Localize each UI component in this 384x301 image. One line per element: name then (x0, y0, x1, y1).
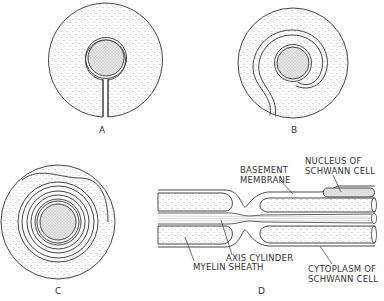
axon-b (277, 47, 309, 79)
panel-label-d: D (258, 286, 265, 296)
panel-label-c: C (55, 286, 61, 296)
panel-d-node-of-ranvier (158, 175, 377, 264)
label-nucleus-of-schwann-cell: NUCLEUS OF SCHWANN CELL (305, 156, 375, 176)
label-cytoplasm-of-schwann-cell: CYTOPLASM OF SCHWANN CELL (308, 264, 378, 284)
label-basement-membrane: BASEMENT MEMBRANE (240, 165, 291, 185)
panel-b-schwann-cell-wrapping (238, 8, 348, 118)
schwann-nucleus (323, 188, 374, 197)
panel-label-b: B (291, 125, 297, 135)
axon-c (40, 204, 76, 240)
leader-cytoplasm (320, 246, 332, 264)
label-myelin-sheath: MYELIN SHEATH (193, 262, 264, 272)
axon-a (88, 40, 124, 76)
panel-a-schwann-cell-initial (48, 3, 162, 117)
myelination-diagram (0, 0, 384, 301)
panel-label-a: A (99, 125, 105, 135)
panel-c-myelin-sheath-formed (1, 165, 115, 279)
